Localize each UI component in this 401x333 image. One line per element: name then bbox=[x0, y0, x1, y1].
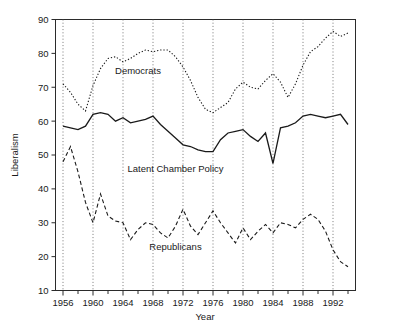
x-tick-label-1964: 1964 bbox=[112, 297, 133, 308]
x-tick-label-1992: 1992 bbox=[322, 297, 343, 308]
x-axis-title: Year bbox=[195, 311, 214, 322]
y-tick-label-40: 40 bbox=[38, 183, 49, 194]
y-tick-label-90: 90 bbox=[38, 14, 49, 25]
y-tick-label-80: 80 bbox=[38, 48, 49, 59]
y-tick-label-60: 60 bbox=[38, 116, 49, 127]
y-tick-label-30: 30 bbox=[38, 217, 49, 228]
x-tick-label-1976: 1976 bbox=[202, 297, 223, 308]
x-tick-label-1956: 1956 bbox=[52, 297, 73, 308]
y-axis-title: Liberalism bbox=[9, 133, 20, 176]
x-tick-label-1988: 1988 bbox=[292, 297, 313, 308]
liberalism-time-series-chart: 102030405060708090 195619601964196819721… bbox=[0, 0, 401, 333]
x-tick-label-1968: 1968 bbox=[142, 297, 163, 308]
y-tick-label-10: 10 bbox=[38, 285, 49, 296]
y-tick-label-20: 20 bbox=[38, 251, 49, 262]
series-label-republicans: Republicans bbox=[149, 241, 202, 252]
x-tick-label-1972: 1972 bbox=[172, 297, 193, 308]
y-tick-label-70: 70 bbox=[38, 82, 49, 93]
series-label-latent-chamber-policy: Latent Chamber Policy bbox=[127, 163, 223, 174]
series-label-democrats: Democrats bbox=[115, 65, 161, 76]
x-tick-label-1984: 1984 bbox=[262, 297, 283, 308]
x-tick-label-1960: 1960 bbox=[82, 297, 103, 308]
x-tick-label-1980: 1980 bbox=[232, 297, 253, 308]
chart-figure: 102030405060708090 195619601964196819721… bbox=[0, 0, 401, 333]
y-tick-label-50: 50 bbox=[38, 149, 49, 160]
